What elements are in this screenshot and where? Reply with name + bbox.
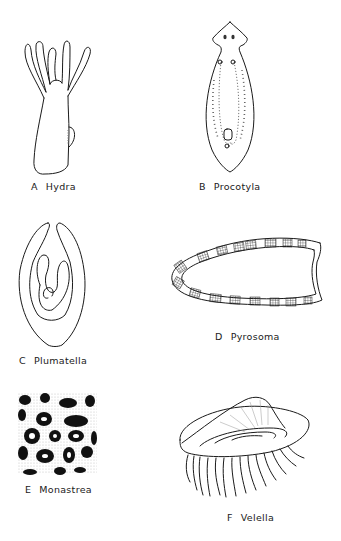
figure-letter: F: [227, 512, 233, 523]
figure-name: Velella: [241, 512, 274, 523]
velella-icon: [0, 0, 341, 541]
figure-label-f: FVelella: [227, 512, 274, 523]
